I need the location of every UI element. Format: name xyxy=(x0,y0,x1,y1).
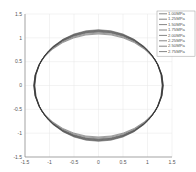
legend-label: 1.25MPa xyxy=(168,16,185,21)
x-tick-label: 0.5 xyxy=(120,159,127,165)
grid xyxy=(25,14,172,157)
legend-label: 2.00MPa xyxy=(168,33,185,38)
y-tick-label: -0.5 xyxy=(13,106,22,112)
y-tick-label: -1.5 xyxy=(13,154,22,160)
legend-label: 1.50MPa xyxy=(168,22,185,27)
legend: 1.00MPa1.25MPa1.50MPa1.75MPa2.00MPa2.25M… xyxy=(157,11,195,56)
legend-label: 1.75MPa xyxy=(168,27,185,32)
y-tick-label: -1 xyxy=(18,130,23,136)
y-tick-label: 0.5 xyxy=(15,58,22,64)
legend-label: 1.00MPa xyxy=(168,11,185,16)
x-tick-label: 0 xyxy=(97,159,100,165)
chart: -1.5-1-0.500.511.51.510.50-0.5-1-1.5 1.0… xyxy=(0,0,196,172)
legend-label: 2.50MPa xyxy=(168,43,185,48)
x-tick-label: -1.5 xyxy=(21,159,30,165)
y-tick-label: 1 xyxy=(19,35,22,41)
x-tick-label: -1 xyxy=(47,159,52,165)
legend-label: 2.75MPa xyxy=(168,49,185,54)
y-tick-label: 1.5 xyxy=(15,11,22,17)
x-tick-label: -0.5 xyxy=(70,159,79,165)
y-tick-label: 0 xyxy=(19,82,22,88)
x-tick-label: 1.5 xyxy=(169,159,176,165)
x-tick-label: 1 xyxy=(146,159,149,165)
legend-label: 2.25MPa xyxy=(168,38,185,43)
